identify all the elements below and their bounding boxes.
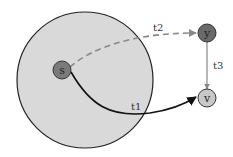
node-label-y: y [203, 27, 211, 40]
node-v[interactable]: v [198, 89, 216, 107]
node-y[interactable]: y [198, 24, 216, 42]
node-s[interactable]: s [53, 61, 71, 79]
edge-label-t2: t2 [153, 22, 163, 33]
edge-label-t3: t3 [213, 60, 223, 71]
node-label-v: v [203, 92, 211, 105]
edge-label-t1: t1 [131, 101, 141, 112]
region-circle [17, 12, 153, 148]
node-label-s: s [59, 64, 65, 77]
diagram-canvas: t2 t1 t3 s y v [0, 0, 233, 157]
